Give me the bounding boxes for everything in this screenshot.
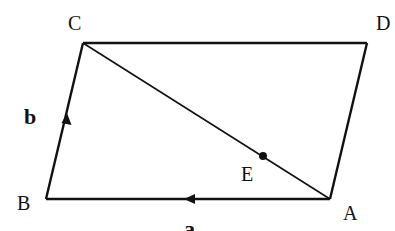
point-e-dot [259,152,267,160]
point-label-e: E [241,163,253,185]
edge-da [330,43,367,199]
vertex-label-c: C [68,12,81,34]
arrow-b-icon [62,113,72,125]
vertex-label-b: B [17,192,30,214]
vertex-label-d: D [376,12,390,34]
diagonal-ac [83,43,330,199]
parallelogram-diagram: C D B A E b a [0,0,395,231]
vector-label-b: b [24,104,36,129]
arrow-a-icon [184,194,195,204]
vertex-label-a: A [343,202,358,224]
vector-label-a: a [184,216,195,231]
